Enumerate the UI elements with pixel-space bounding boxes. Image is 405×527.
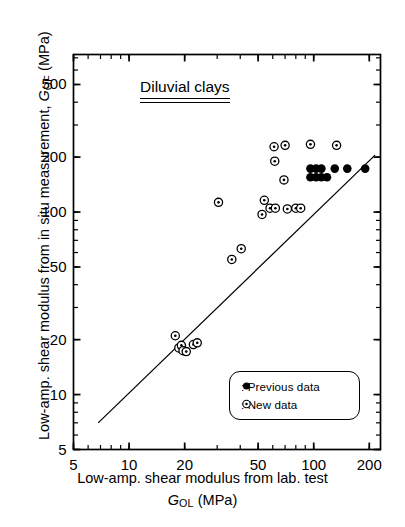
data-point-new-center (309, 143, 312, 146)
legend-box: : Previous data : New data (229, 371, 360, 420)
chart-title-text: Diluvial clays (140, 78, 230, 99)
series-previous-data (306, 164, 369, 181)
data-point-new-center (196, 342, 199, 345)
data-point-previous (323, 173, 332, 182)
data-point-new-center (283, 179, 286, 182)
legend-item-new-data: : New data (241, 398, 297, 411)
data-point-previous (343, 164, 352, 173)
legend-item-previous-data: : Previous data (241, 380, 320, 393)
data-point-new-center (273, 160, 276, 163)
data-point-new-center (335, 144, 338, 147)
data-point-previous (317, 164, 326, 173)
title-double-underline (140, 99, 230, 103)
data-point-new-center (230, 258, 233, 261)
x-axis-label-line2: GOL (MPa) (0, 492, 405, 509)
data-point-new-center (174, 334, 177, 337)
data-point-new-center (284, 144, 287, 147)
open-circle-dot-icon (241, 398, 252, 409)
data-point-previous (361, 164, 370, 173)
x-axis-label-symbol: G (168, 492, 179, 508)
y-tick-label-20: 20 (25, 332, 67, 347)
filled-circle-icon (241, 380, 252, 391)
x-tick-label-100: 100 (284, 457, 344, 472)
data-point-new-center (274, 207, 277, 210)
x-axis-label-subscript: OL (179, 497, 194, 509)
x-tick-label-10: 10 (99, 457, 159, 472)
y-tick-label-500: 500 (25, 76, 67, 91)
x-tick-label-200: 200 (339, 457, 399, 472)
data-point-new-center (261, 213, 264, 216)
x-axis-label-units: (MPa) (198, 492, 237, 508)
y-tick-label-200: 200 (25, 149, 67, 164)
x-tick-label-50: 50 (228, 457, 288, 472)
y-tick-label-50: 50 (25, 259, 67, 274)
x-tick-label-5: 5 (44, 457, 104, 472)
data-point-new-center (286, 208, 289, 211)
data-point-previous (330, 164, 339, 173)
legend-label-previous-data: : Previous data (241, 380, 320, 393)
chart-title: Diluvial clays (140, 78, 230, 103)
data-point-new-center (240, 247, 243, 250)
data-point-new-center (185, 350, 188, 353)
x-tick-label-20: 20 (155, 457, 215, 472)
y-axis-label-units: (MPa) (36, 31, 52, 70)
data-point-new-center (263, 199, 266, 202)
data-point-new-center (217, 201, 220, 204)
y-tick-label-100: 100 (25, 204, 67, 219)
data-point-new-center (299, 207, 302, 210)
y-tick-label-10: 10 (25, 387, 67, 402)
x-axis-label-line1: Low-amp. shear modulus from lab. test (0, 470, 405, 486)
y-tick-label-5: 5 (25, 442, 67, 457)
data-point-new-center (273, 145, 276, 148)
figure-scatter-plot: Low-amp. shear modulus from in situ meas… (0, 0, 405, 527)
